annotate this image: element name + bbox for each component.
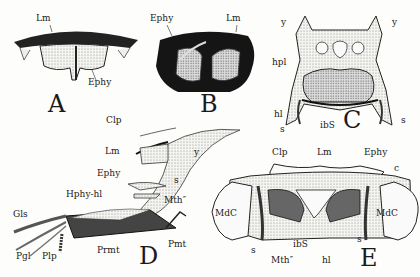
label-e-ephy: Ephy	[364, 148, 387, 157]
label-e-mdc-right: MdC	[376, 209, 398, 218]
panel-letter-d: D	[139, 244, 158, 268]
panel-e-drawing	[212, 164, 418, 240]
panel-d-drawing	[14, 128, 240, 256]
label-d-gls: Gls	[13, 210, 28, 219]
label-d-mth: Mth″	[164, 196, 186, 205]
label-e-mth: Mth″	[271, 256, 293, 265]
panel-c-drawing	[286, 16, 392, 125]
label-c-hpl: hpl	[272, 58, 286, 67]
label-d-pmt: Pmt	[168, 240, 186, 249]
panel-b-drawing	[156, 25, 254, 92]
label-d-s: s	[174, 176, 179, 185]
label-a-ephy: Ephy	[88, 78, 111, 87]
label-d-plp: Plp	[42, 252, 57, 261]
label-d-lm: Lm	[105, 147, 120, 156]
label-d-prmt: Prmt	[97, 246, 120, 255]
label-c-ibs: ibS	[320, 121, 335, 130]
label-b-lm: Lm	[226, 14, 241, 23]
label-e-ibs: ibS	[293, 240, 308, 249]
label-c-y-left: y	[281, 18, 286, 27]
label-e-s-left: s	[251, 246, 256, 255]
label-e-c: c	[394, 164, 399, 173]
panel-letter-c: C	[343, 108, 361, 132]
label-e-mdc-left: MdC	[215, 209, 237, 218]
label-e-clp: Clp	[272, 148, 288, 157]
label-d-hphy-hl: Hphy-hl	[66, 190, 102, 199]
label-e-lm: Lm	[317, 148, 332, 157]
label-d-pgl: Pgl	[16, 252, 31, 261]
label-c-hl: hl	[274, 110, 283, 119]
panel-letter-b: B	[200, 92, 218, 116]
label-a-lm: Lm	[36, 14, 51, 23]
label-d-y: y	[194, 148, 199, 157]
label-c-s-right: s	[401, 116, 406, 125]
label-d-ephy: Ephy	[97, 169, 120, 178]
label-e-s-right: s	[357, 235, 362, 244]
label-b-ephy: Ephy	[150, 14, 173, 23]
panel-letter-e: E	[360, 246, 378, 270]
label-e-hl: hl	[322, 256, 331, 265]
label-d-clp: Clp	[106, 116, 122, 125]
label-c-s-left: s	[280, 125, 285, 134]
label-c-y-right: y	[392, 18, 397, 27]
panel-letter-a: A	[48, 92, 65, 116]
panel-a-drawing	[14, 25, 138, 80]
